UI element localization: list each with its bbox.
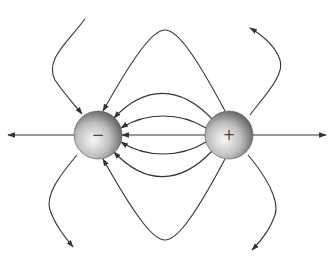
negative-charge: − bbox=[74, 111, 122, 159]
field-line-mid-lower bbox=[114, 151, 212, 177]
field-line-far-upper-left bbox=[52, 19, 85, 114]
positive-sign: + bbox=[223, 126, 236, 144]
field-line-far-lower-right bbox=[248, 155, 276, 250]
field-line-outer-upper bbox=[103, 30, 225, 111]
field-line-far-lower-left bbox=[49, 155, 77, 247]
field-line-inner-upper bbox=[121, 116, 206, 128]
negative-sign: − bbox=[92, 126, 105, 144]
field-line-mid-upper bbox=[114, 93, 212, 119]
field-line-inner-lower bbox=[121, 142, 206, 154]
positive-charge: + bbox=[205, 111, 253, 159]
field-line-far-upper-right bbox=[250, 28, 281, 115]
field-diagram: − + bbox=[0, 0, 334, 262]
field-lines bbox=[8, 19, 326, 250]
field-line-outer-lower bbox=[103, 159, 225, 240]
